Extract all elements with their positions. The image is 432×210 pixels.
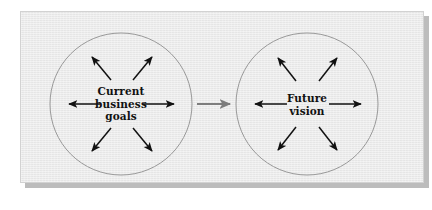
- arrow-current-southeast: [133, 128, 152, 151]
- label-current-line-2: business: [76, 98, 166, 111]
- arrow-future-southwest: [278, 127, 296, 150]
- diagram-vector-layer: [0, 0, 432, 210]
- arrow-current-northwest: [92, 57, 111, 80]
- label-current-line-1: Current: [76, 85, 166, 98]
- diagram-figure: Current business goals Future vision: [0, 0, 432, 210]
- label-current-business-goals: Current business goals: [76, 85, 166, 123]
- arrow-current-southwest: [92, 128, 111, 151]
- label-future-line-2: vision: [262, 105, 352, 118]
- arrow-current-northeast: [133, 57, 152, 80]
- label-future-vision: Future vision: [262, 92, 352, 117]
- arrow-future-southeast: [319, 127, 337, 150]
- label-future-line-1: Future: [262, 92, 352, 105]
- arrow-future-northwest: [278, 58, 296, 81]
- arrow-future-northeast: [319, 58, 337, 81]
- label-current-line-3: goals: [76, 110, 166, 123]
